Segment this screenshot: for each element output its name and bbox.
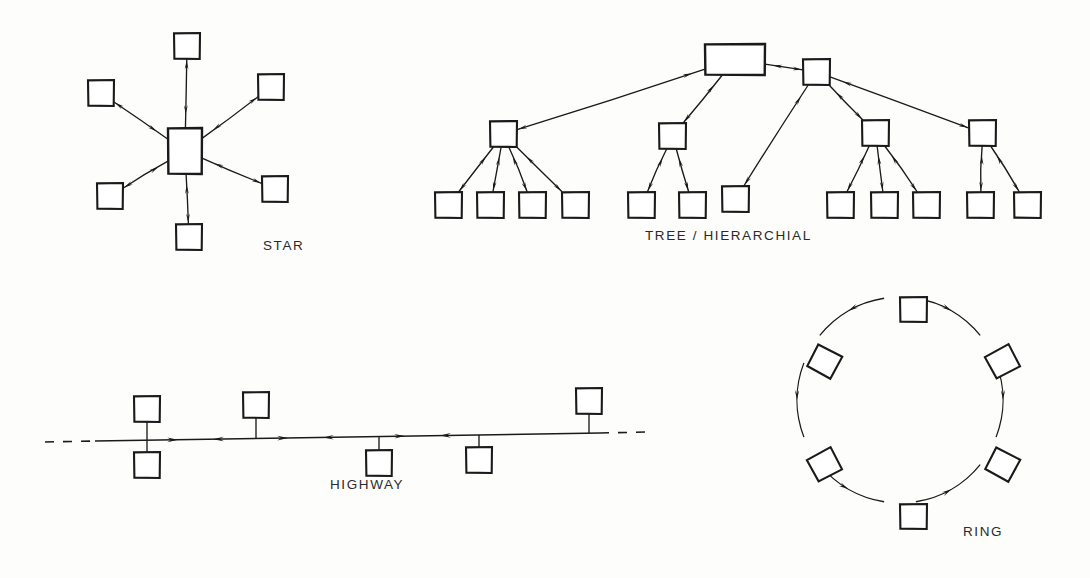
star-hub [168, 128, 202, 174]
ring-arrow-1 [942, 304, 952, 311]
star-node-bottom [176, 224, 202, 250]
ring-node-top [900, 297, 927, 322]
star-spoke-4 [123, 161, 168, 188]
star-topology-group [88, 33, 288, 250]
tree-edge-leaf-7 [847, 146, 869, 192]
star-caption: STAR [263, 238, 304, 253]
tree-leaf-9 [913, 192, 940, 218]
tree-leaf-4 [562, 192, 589, 218]
star-spoke-5 [202, 158, 262, 183]
tree-edge-leaf-9 [885, 146, 918, 192]
tree-edge-leaf-11-arrow-forward [1012, 182, 1018, 190]
tree-leaf-11 [1014, 192, 1041, 218]
ring-node-lower-left [807, 447, 843, 482]
tree-edge-leaf-10-arrow-back [980, 156, 984, 165]
star-node-top [174, 33, 200, 59]
ring-arrow-3 [942, 489, 952, 496]
highway-node-1-below [134, 452, 160, 478]
topology-vector-layer [0, 0, 1090, 578]
highway-topology-group [45, 388, 648, 478]
tree-direct-leaf [722, 186, 749, 212]
tree-leaf-10 [967, 192, 994, 218]
tree-leaf-8 [871, 192, 898, 218]
tree-branch-4 [969, 120, 996, 146]
tree-branch-1 [490, 121, 517, 147]
tree-edge-branch-1 [517, 69, 705, 130]
tree-caption: TREE / HIERARCHIAL [645, 228, 812, 243]
tree-branch-2 [659, 123, 686, 149]
tree-leaf-6 [679, 192, 706, 218]
star-spoke-3 [202, 97, 258, 139]
tree-edge-leaf-11 [991, 146, 1020, 192]
tree-edge-direct-leaf-arrow-forward [745, 176, 751, 184]
highway-node-3 [366, 450, 392, 476]
ring-arc-3 [916, 465, 980, 502]
tree-edge-leaf-1 [459, 147, 494, 192]
tree-edge-branch-2 [683, 75, 722, 123]
ring-node-lower-right [985, 447, 1021, 482]
tree-edge-branch-4 [830, 77, 969, 128]
star-node-lower-right [262, 176, 288, 202]
highway-node-2 [243, 392, 269, 418]
ring-node-bottom [900, 504, 927, 529]
star-node-upper-left [88, 80, 114, 106]
ring-caption: RING [963, 524, 1003, 539]
highway-node-5 [576, 388, 602, 414]
ring-node-upper-left [807, 344, 843, 379]
highway-caption: HIGHWAY [330, 477, 404, 492]
star-spoke-3-arrow-back [213, 123, 221, 130]
highway-dash-right [600, 432, 648, 433]
star-spoke-5-arrow-back [215, 164, 224, 169]
ring-arc-6 [820, 298, 884, 335]
topology-diagram-canvas: STAR TREE / HIERARCHIAL HIGHWAY RING [0, 0, 1090, 578]
star-spoke-2-arrow-forward [115, 103, 123, 110]
tree-topology-group [435, 44, 1041, 218]
tree-branch-3 [862, 120, 889, 146]
highway-node-4 [466, 447, 492, 473]
highway-bus-line [95, 433, 600, 441]
ring-topology-group [795, 297, 1020, 529]
tree-leaf-3 [519, 192, 546, 218]
star-spoke-1 [185, 59, 186, 128]
highway-dash-left [45, 441, 96, 442]
tree-subroot [803, 59, 830, 85]
ring-arrow-6 [849, 304, 859, 311]
ring-arc-5 [797, 363, 804, 437]
tree-edge-leaf-7-arrow-forward [847, 182, 853, 191]
star-spoke-2 [114, 102, 168, 139]
tree-leaf-2 [477, 192, 504, 218]
star-node-upper-right [258, 74, 284, 100]
highway-node-1-above [134, 396, 160, 422]
tree-leaf-5 [628, 192, 655, 218]
ring-node-upper-right [985, 344, 1021, 379]
tree-leaf-1 [435, 192, 462, 218]
tree-leaf-7 [827, 192, 854, 218]
tree-edge-leaf-9-arrow-forward [910, 183, 917, 191]
tree-root [705, 44, 765, 75]
star-node-lower-left [97, 183, 123, 209]
tree-edge-branch-3 [829, 85, 863, 120]
